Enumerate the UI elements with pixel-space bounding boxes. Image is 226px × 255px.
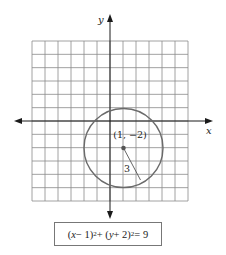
y-axis [107, 14, 113, 219]
equation-box: (x − 1)2 + (y + 2)2 = 9 [54, 222, 162, 246]
x-axis-left-arrow-icon [14, 118, 22, 124]
center-label: (1, −2) [113, 129, 147, 140]
y-axis-up-arrow-icon [107, 14, 113, 22]
equation-text: + 2) [114, 229, 131, 240]
y-axis-down-arrow-icon [107, 211, 113, 219]
center-point [121, 146, 126, 151]
equation-text: + ( [97, 229, 109, 240]
equation-text: = 9 [134, 229, 148, 240]
circle-graph-figure: x y (1, −2) 3 (x − 1)2 + (y + 2)2 = 9 [0, 0, 226, 255]
x-axis [14, 118, 213, 124]
y-axis-label: y [97, 14, 104, 25]
x-axis-label: x [206, 125, 212, 136]
coordinate-plane: x y (1, −2) 3 [0, 0, 226, 255]
radius-label: 3 [124, 163, 130, 174]
x-axis-right-arrow-icon [205, 118, 213, 124]
equation-text: − 1) [76, 229, 93, 240]
